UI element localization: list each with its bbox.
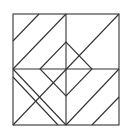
geometric-figure — [0, 0, 126, 130]
line-segment — [13, 14, 66, 69]
line-segment — [66, 69, 119, 125]
line-segment — [13, 14, 39, 41]
line-segment — [92, 97, 119, 125]
